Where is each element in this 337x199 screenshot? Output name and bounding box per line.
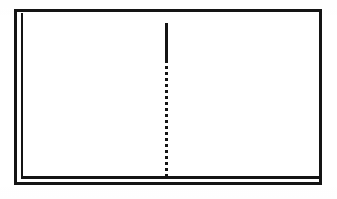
frame-inner-left-rule: [21, 13, 23, 179]
frame-top-rule: [14, 9, 322, 12]
frame-outer-left-rule: [14, 9, 17, 185]
frame-inner-bottom-rule: [21, 176, 322, 179]
plot-interior: [24, 12, 319, 176]
divider-dotted-segment: [165, 60, 168, 176]
figure-root: [0, 0, 337, 199]
frame-outer-bottom-rule: [14, 182, 322, 185]
frame-right-rule: [319, 9, 322, 185]
divider-solid-segment: [165, 23, 168, 60]
